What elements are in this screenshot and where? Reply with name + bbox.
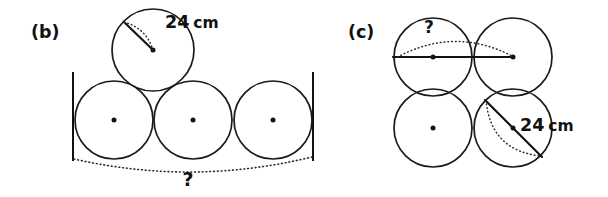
panel-c-label: (c) <box>348 22 374 42</box>
figure-canvas: (b) 24cm ? <box>0 0 608 197</box>
panel-b-label: (b) <box>31 22 60 42</box>
geometry-figure: (b) 24cm ? <box>0 0 608 197</box>
dimension-value: 24 <box>165 12 189 32</box>
radius-line <box>124 22 153 50</box>
center-dot <box>191 118 196 123</box>
dimension-label-24cm: 24cm <box>520 115 574 135</box>
center-dot <box>431 126 436 131</box>
center-dot <box>271 118 276 123</box>
dimension-unit: cm <box>193 14 218 32</box>
unknown-length-label: ? <box>424 17 434 37</box>
panel-b: (b) 24cm ? <box>31 9 313 190</box>
unknown-length-label: ? <box>182 168 193 190</box>
dimension-unit: cm <box>548 117 573 135</box>
panel-c: (c) ? 24cm <box>348 17 574 167</box>
dimension-value: 24 <box>520 115 544 135</box>
center-dot <box>112 118 117 123</box>
dimension-label-24cm: 24cm <box>165 12 219 32</box>
